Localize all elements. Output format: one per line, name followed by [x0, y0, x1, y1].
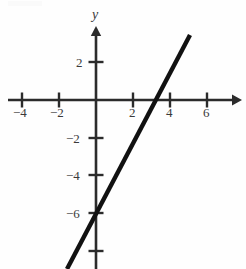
y-tick-label--2: −2: [66, 132, 80, 145]
coordinate-plane: [0, 0, 246, 269]
y-axis-label: y: [92, 8, 98, 22]
y-tick-label--4: −4: [66, 169, 80, 182]
x-tick-label-6: 6: [203, 106, 210, 119]
graph-figure: −4 −2 2 4 6 2 −2 −4 −6 y: [0, 0, 246, 269]
x-tick-label--2: −2: [50, 106, 64, 119]
x-tick-label-4: 4: [166, 106, 173, 119]
data-line: [67, 35, 190, 269]
x-tick-label-2: 2: [129, 106, 136, 119]
x-tick-label--4: −4: [13, 106, 27, 119]
y-tick-label-2: 2: [76, 56, 83, 69]
y-tick-label--6: −6: [66, 207, 80, 220]
